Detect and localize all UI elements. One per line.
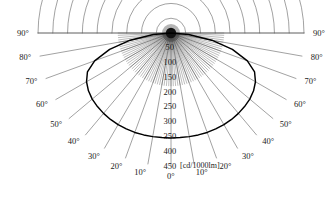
unit-label: [cd/1000lm]: [180, 162, 220, 170]
angle-label-left-20: 20°: [110, 162, 122, 171]
radial-label-150: 150: [164, 73, 177, 82]
radial-label-350: 350: [164, 132, 177, 141]
angle-label-right-50: 50°: [280, 120, 292, 129]
angle-label-left-90: 90°: [17, 29, 29, 38]
angle-label-right-60: 60°: [294, 100, 306, 109]
radial-label-450: 450: [164, 162, 177, 171]
radial-label-300: 300: [164, 117, 177, 126]
angle-label-left-70: 70°: [26, 77, 38, 86]
angle-label-right-40: 40°: [262, 137, 274, 146]
angle-label-right-90: 90°: [313, 29, 325, 38]
radial-label-50: 50: [166, 43, 175, 52]
radial-label-100: 100: [164, 58, 177, 67]
angle-label-left-80: 80°: [19, 53, 31, 62]
angle-label-right-70: 70°: [304, 77, 316, 86]
angle-label-right-20: 20°: [220, 162, 232, 171]
angle-label-right-80: 80°: [311, 53, 323, 62]
angle-label-left-60: 60°: [36, 100, 48, 109]
angle-label-right-30: 30°: [242, 152, 254, 161]
radial-label-250: 250: [164, 102, 177, 111]
angle-label-left-40: 40°: [68, 137, 80, 146]
polar-light-distribution-figure: 90°80°70°60°50°40°30°20°10°90°80°70°60°5…: [0, 0, 336, 200]
angle-label-left-30: 30°: [88, 152, 100, 161]
angle-label-left-50: 50°: [50, 120, 62, 129]
radial-label-200: 200: [164, 88, 177, 97]
angle-label-left-10: 10°: [134, 168, 146, 177]
angle-label-center-0: 0°: [167, 172, 175, 181]
radial-label-400: 400: [164, 147, 177, 156]
